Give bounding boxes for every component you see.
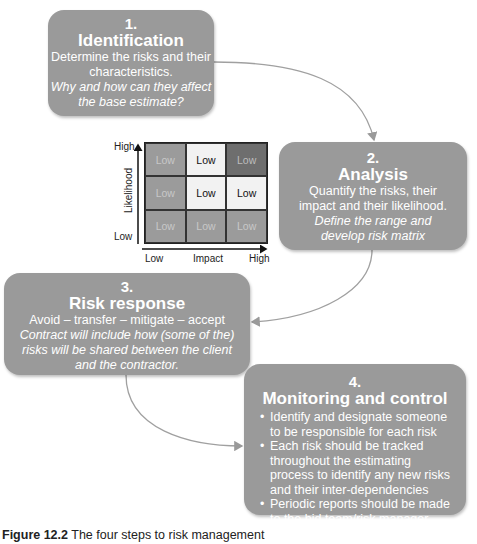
step-risk-response-box: 3. Risk response Avoid – transfer – miti… [4, 273, 250, 375]
step-description: Avoid – transfer – mitigate – accept [4, 313, 250, 328]
connector-2-to-3 [252, 250, 372, 322]
step-note: and the contractor. [4, 358, 250, 373]
matrix-cell: Low [186, 210, 227, 243]
step-identification-box: 1. Identification Determine the risks an… [48, 10, 214, 116]
step-description: characteristics. [48, 65, 214, 80]
caption-text: The four steps to risk management [71, 528, 264, 542]
step-title: Risk response [4, 295, 250, 313]
step-analysis-box: 2. Analysis Quantify the risks, their im… [279, 142, 467, 250]
y-axis-title: Likelihood [123, 161, 134, 221]
matrix-cell: Low [226, 176, 267, 209]
bullet-item: Identify and designate someone to be res… [262, 410, 456, 439]
matrix-cell: Low [186, 143, 227, 176]
matrix-cell: Low [145, 176, 186, 209]
risk-matrix: Low Low Low Low Low Low Low Low Low [144, 142, 268, 244]
matrix-cell: Low [186, 176, 227, 209]
x-axis-low-label: Low [145, 253, 163, 264]
matrix-cell: Low [226, 143, 267, 176]
step-question: the base estimate? [48, 95, 214, 110]
step-number: 1. [48, 16, 214, 32]
step-number: 2. [279, 150, 467, 166]
bullet-item: Periodic reports should be made to the b… [262, 497, 456, 526]
x-axis-title: Impact [193, 253, 223, 264]
matrix-cell: Low [145, 143, 186, 176]
step-number: 4. [244, 374, 466, 390]
matrix-cell: Low [145, 210, 186, 243]
figure-caption: Figure 12.2 The four steps to risk manag… [2, 528, 264, 542]
caption-label: Figure 12.2 [2, 528, 68, 542]
x-axis-high-label: High [249, 253, 270, 264]
step-description: impact and their likelihood. [279, 199, 467, 214]
step-title: Monitoring and control [244, 390, 466, 408]
step-number: 3. [4, 279, 250, 295]
step-title: Identification [48, 32, 214, 50]
step-description: Determine the risks and their [48, 50, 214, 65]
step-note: risks will be shared between the client [4, 343, 250, 358]
y-axis-low-label: Low [114, 231, 132, 242]
step-note: Contract will include how (some of the) [4, 328, 250, 343]
step-description: Quantify the risks, their [279, 184, 467, 199]
bullet-item: Each risk should be tracked throughout t… [262, 439, 456, 497]
connector-1-to-2 [214, 62, 374, 140]
step-bullets: Identify and designate someone to be res… [244, 410, 466, 526]
step-note: develop risk matrix [279, 229, 467, 244]
y-axis-high-label: High [114, 141, 135, 152]
connector-3-to-4 [126, 375, 242, 446]
matrix-cell: Low [226, 210, 267, 243]
step-title: Analysis [279, 166, 467, 184]
step-question: Why and how can they affect [48, 80, 214, 95]
step-note: Define the range and [279, 214, 467, 229]
step-monitoring-box: 4. Monitoring and control Identify and d… [244, 364, 466, 515]
